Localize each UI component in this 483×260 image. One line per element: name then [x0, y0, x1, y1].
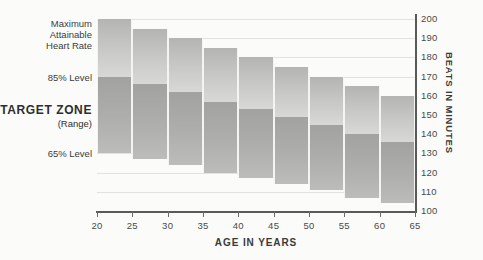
bar-age-20	[97, 19, 132, 153]
bar-segment-lower-age-40	[238, 109, 273, 178]
bar-age-40	[238, 57, 273, 178]
bar-segment-upper-age-60	[380, 96, 415, 142]
y-tick-label-160: 160	[421, 91, 437, 101]
x-axis-title: AGE IN YEARS	[96, 237, 416, 248]
bar-segment-upper-age-55	[344, 86, 379, 134]
x-tick-label-25: 25	[112, 220, 152, 231]
bar-segment-lower-age-60	[380, 142, 415, 203]
bar-segment-lower-age-35	[203, 102, 238, 173]
bar-age-45	[274, 67, 309, 184]
plot-area	[97, 19, 415, 211]
bar-segment-lower-age-55	[344, 134, 379, 197]
max-hr-line-3: Heart Rate	[0, 40, 92, 51]
x-tick-45	[274, 211, 275, 217]
bar-segment-lower-age-20	[97, 77, 132, 154]
target-zone-title: TARGET ZONE	[0, 103, 92, 117]
x-tick-label-20: 20	[77, 220, 117, 231]
annotation-85-level: 85% Level	[0, 72, 92, 83]
y-tick-label-130: 130	[421, 148, 437, 158]
bar-segment-lower-age-45	[274, 117, 309, 184]
annotation-target-zone: TARGET ZONE (Range)	[0, 104, 92, 130]
x-tick-60	[380, 211, 381, 217]
x-tick-25	[132, 211, 133, 217]
y-tick-label-170: 170	[421, 72, 437, 82]
x-axis-line	[96, 211, 416, 213]
bar-segment-upper-age-25	[132, 29, 167, 85]
bar-segment-upper-age-35	[203, 48, 238, 102]
bar-segment-upper-age-40	[238, 57, 273, 109]
bar-segment-lower-age-30	[168, 92, 203, 165]
bar-segment-lower-age-25	[132, 84, 167, 159]
annotation-65-level: 65% Level	[0, 148, 92, 159]
annotation-maximum-attainable-heart-rate: Maximum Attainable Heart Rate	[0, 18, 92, 51]
bar-segment-upper-age-50	[309, 77, 344, 125]
x-tick-label-45: 45	[254, 220, 294, 231]
x-tick-label-65: 65	[395, 220, 435, 231]
bar-age-25	[132, 29, 167, 160]
bar-segment-upper-age-30	[168, 38, 203, 92]
y-tick-label-180: 180	[421, 52, 437, 62]
x-tick-40	[238, 211, 239, 217]
x-tick-label-35: 35	[183, 220, 223, 231]
y-tick-label-190: 190	[421, 33, 437, 43]
max-hr-line-2: Attainable	[0, 29, 92, 40]
y-tick-label-100: 100	[421, 206, 437, 216]
bar-series	[97, 19, 415, 211]
bar-segment-lower-age-50	[309, 125, 344, 190]
bar-segment-upper-age-20	[97, 19, 132, 77]
bar-age-60	[380, 96, 415, 204]
y-tick-label-110: 110	[421, 187, 437, 197]
bar-age-35	[203, 48, 238, 173]
x-tick-55	[344, 211, 345, 217]
x-tick-label-55: 55	[324, 220, 364, 231]
x-tick-label-40: 40	[218, 220, 258, 231]
x-tick-50	[309, 211, 310, 217]
bar-segment-upper-age-45	[274, 67, 309, 117]
y-tick-label-150: 150	[421, 110, 437, 120]
heart-rate-target-zone-chart: Maximum Attainable Heart Rate 85% Level …	[0, 0, 483, 260]
y-tick-label-140: 140	[421, 129, 437, 139]
target-zone-subtitle: (Range)	[0, 117, 92, 130]
x-tick-20	[97, 211, 98, 217]
y-tick-label-120: 120	[421, 168, 437, 178]
bar-age-30	[168, 38, 203, 165]
x-tick-label-50: 50	[289, 220, 329, 231]
x-tick-30	[168, 211, 169, 217]
x-tick-label-30: 30	[148, 220, 188, 231]
y-tick-label-200: 200	[421, 14, 437, 24]
x-tick-label-60: 60	[360, 220, 400, 231]
x-tick-65	[415, 211, 416, 217]
x-tick-35	[203, 211, 204, 217]
max-hr-line-1: Maximum	[0, 18, 92, 29]
bar-age-50	[309, 77, 344, 190]
y-axis-title: BEATS IN MINUTES	[444, 52, 455, 154]
bar-age-55	[344, 86, 379, 197]
y-axis-line	[415, 14, 417, 213]
